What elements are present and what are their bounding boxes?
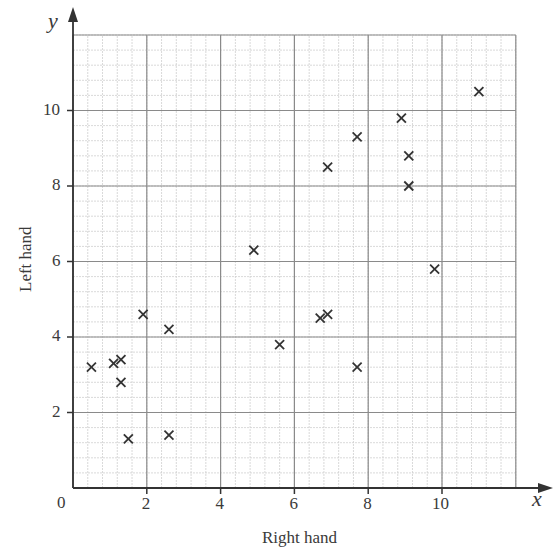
x-tick-label: 4 <box>216 494 225 514</box>
x-marker-icon <box>353 132 362 141</box>
x-tick-label: 10 <box>432 494 449 514</box>
x-marker-icon <box>404 151 413 160</box>
y-tick-label: 2 <box>52 402 61 422</box>
major-grid <box>73 35 516 488</box>
x-axis-title: Right hand <box>262 528 337 548</box>
y-tick-label: 6 <box>52 251 61 271</box>
y-tick-label: 4 <box>52 326 61 346</box>
x-marker-icon <box>430 265 439 274</box>
x-marker-icon <box>397 114 406 123</box>
x-marker-icon <box>124 434 133 443</box>
x-marker-icon <box>275 340 284 349</box>
y-axis-title: Left hand <box>16 226 36 292</box>
y-tick-label: 8 <box>52 175 61 195</box>
x-tick-label: 8 <box>363 494 372 514</box>
x-marker-icon <box>323 163 332 172</box>
y-axis-arrow-icon <box>68 7 78 22</box>
scatter-plot <box>0 0 558 557</box>
x-axis-letter: x <box>532 486 542 512</box>
x-tick-label: 6 <box>289 494 298 514</box>
x-marker-icon <box>164 431 173 440</box>
x-marker-icon <box>249 246 258 255</box>
y-axis-letter: y <box>48 8 58 34</box>
x-marker-icon <box>164 325 173 334</box>
x-marker-icon <box>474 87 483 96</box>
x-tick-label: 2 <box>142 494 151 514</box>
origin-label: 0 <box>57 493 66 513</box>
y-tick-label: 10 <box>43 100 60 120</box>
